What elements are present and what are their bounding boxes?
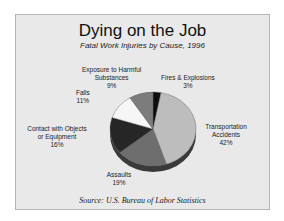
- label-fires-pct: 3%: [161, 82, 215, 90]
- label-contact-line1: Contact with Objects: [16, 125, 98, 133]
- label-assaults-pct: 19%: [104, 179, 134, 187]
- label-transportation-line1: Transportation: [201, 123, 251, 131]
- label-fires-line1: Fires & Explosions: [161, 74, 215, 82]
- label-exposure-line2: Substances: [82, 74, 141, 82]
- label-transportation-line2: Accidents: [201, 131, 251, 139]
- chart-panel: Dying on the Job Fatal Work Injuries by …: [15, 14, 270, 210]
- label-contact-line2: or Equipment: [16, 133, 98, 141]
- label-exposure: Exposure to Harmful Substances 9%: [82, 66, 141, 90]
- label-transportation-pct: 42%: [201, 139, 251, 147]
- label-transportation: Transportation Accidents 42%: [201, 123, 251, 147]
- label-fires: Fires & Explosions 3%: [161, 74, 215, 90]
- label-exposure-pct: 9%: [82, 82, 141, 90]
- label-contact: Contact with Objects or Equipment 16%: [16, 125, 98, 149]
- label-exposure-line1: Exposure to Harmful: [82, 66, 141, 74]
- label-assaults-line1: Assaults: [104, 171, 134, 179]
- chart-source: Source: U.S. Bureau of Labor Statistics: [16, 196, 269, 205]
- label-assaults: Assaults 19%: [104, 171, 134, 187]
- label-falls-line1: Falls: [76, 89, 90, 97]
- pie-chart: [16, 15, 271, 211]
- label-contact-pct: 16%: [16, 141, 98, 149]
- label-falls: Falls 11%: [76, 89, 90, 105]
- label-falls-pct: 11%: [76, 97, 90, 105]
